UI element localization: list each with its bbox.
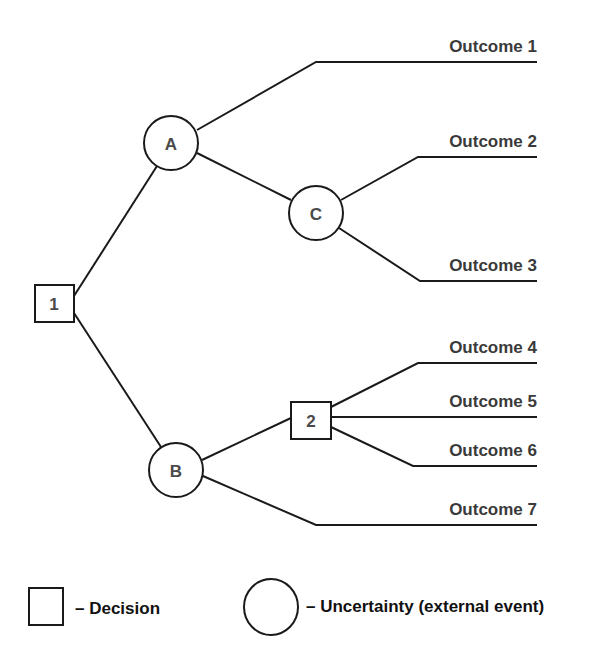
legend-decision-square-icon: [29, 588, 63, 625]
legend-decision-label: – Decision: [75, 599, 160, 618]
edge-b-to-2: [202, 418, 291, 460]
outcome-label-3: Outcome 3: [449, 256, 537, 275]
edge-1-to-b: [74, 313, 161, 447]
legend: – Decision – Uncertainty (external event…: [29, 579, 544, 635]
edge-a-to-c: [197, 153, 291, 200]
node-label: C: [310, 205, 322, 224]
node-label: 1: [49, 295, 58, 314]
node-label: A: [165, 135, 177, 154]
uncertainty-node-a: A: [144, 116, 198, 170]
outcome-label-7: Outcome 7: [449, 500, 537, 519]
outcome-label-6: Outcome 6: [449, 441, 537, 460]
decision-node-2: 2: [291, 402, 331, 439]
decision-tree-diagram: 1 A C B 2 Outcome 1 Outcome 2 Outcome 3 …: [0, 0, 605, 659]
outcome-label-4: Outcome 4: [449, 338, 537, 357]
edge-a-to-outcome-1: [197, 62, 537, 130]
outcome-label-2: Outcome 2: [449, 132, 537, 151]
decision-node-1: 1: [35, 285, 74, 322]
edge-1-to-a: [74, 166, 157, 296]
outcome-label-5: Outcome 5: [449, 392, 537, 411]
uncertainty-node-b: B: [149, 443, 203, 497]
legend-uncertainty-label: – Uncertainty (external event): [306, 597, 544, 616]
edge-c-to-outcome-2: [341, 157, 537, 200]
node-label: 2: [306, 412, 315, 431]
outcome-label-1: Outcome 1: [449, 37, 537, 56]
legend-uncertainty-circle-icon: [244, 579, 298, 635]
uncertainty-node-c: C: [289, 186, 343, 240]
outcome-labels: Outcome 1 Outcome 2 Outcome 3 Outcome 4 …: [449, 37, 537, 519]
node-label: B: [170, 462, 182, 481]
